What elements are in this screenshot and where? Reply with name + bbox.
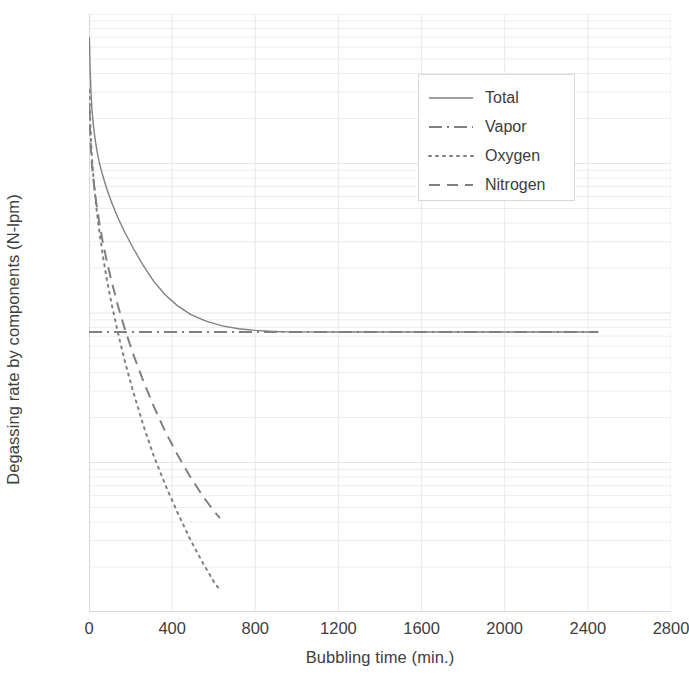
plot-svg — [89, 14, 671, 612]
legend-item-nitrogen[interactable]: Nitrogen — [419, 170, 574, 199]
legend-label: Nitrogen — [485, 176, 545, 194]
legend-line-sample-oxygen — [428, 150, 474, 162]
x-tick-label: 2800 — [653, 619, 689, 638]
minor-gridlines — [89, 21, 671, 567]
legend-line-sample-total — [428, 92, 474, 104]
legend-item-total[interactable]: Total — [419, 83, 574, 112]
legend-item-vapor[interactable]: Vapor — [419, 112, 574, 141]
legend-line-sample-vapor — [428, 121, 474, 133]
legend-line-sample-nitrogen — [428, 179, 474, 191]
x-tick-label: 0 — [84, 619, 93, 638]
x-axis-title: Bubbling time (min.) — [89, 648, 671, 667]
plot-area — [89, 14, 671, 612]
legend-label: Vapor — [485, 118, 527, 136]
chart-legend: TotalVaporOxygenNitrogen — [418, 74, 575, 201]
x-tick-label: 800 — [242, 619, 270, 638]
legend-label: Total — [485, 89, 519, 107]
y-axis-title: Degassing rate by components (N-lpm) — [0, 0, 26, 679]
x-tick-label: 2400 — [569, 619, 606, 638]
series-line-oxygen — [89, 90, 220, 590]
x-tick-label: 1600 — [403, 619, 440, 638]
x-tick-label: 1200 — [320, 619, 357, 638]
legend-label: Oxygen — [485, 147, 540, 165]
x-tick-label: 2000 — [486, 619, 523, 638]
x-tick-label: 400 — [158, 619, 186, 638]
legend-item-oxygen[interactable]: Oxygen — [419, 141, 574, 170]
series-line-nitrogen — [89, 107, 220, 518]
